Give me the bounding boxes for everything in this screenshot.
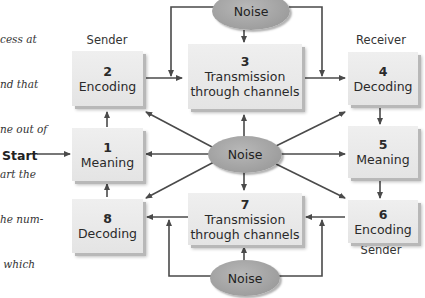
step-box-1-meaning: 1 Meaning (72, 128, 143, 181)
step-number: 4 (348, 64, 418, 79)
step-number: 2 (72, 64, 143, 79)
step-number: 1 (72, 140, 143, 155)
step-number: 3 (188, 54, 302, 69)
role-label-sender-bottom: Sender (341, 243, 421, 257)
step-box-2-encoding: 2 Encoding (72, 51, 143, 106)
step-label: Meaning (348, 152, 418, 167)
step-label: Decoding (72, 226, 143, 241)
step-box-5-meaning: 5 Meaning (348, 126, 418, 178)
role-label-sender-top: Sender (67, 33, 147, 47)
step-box-4-decoding: 4 Decoding (348, 52, 418, 105)
step-number: 7 (188, 197, 302, 212)
step-box-3-transmission: 3 Transmission through channels (188, 44, 302, 109)
noise-ellipse-center: Noise (208, 136, 282, 173)
step-label-line1: Transmission (188, 212, 302, 227)
step-number: 6 (348, 207, 418, 222)
step-label-line1: Transmission (188, 69, 302, 84)
step-box-6-encoding: 6 Encoding (348, 200, 418, 243)
start-label: Start (2, 148, 38, 163)
step-label: Decoding (348, 79, 418, 94)
step-label: Encoding (72, 79, 143, 94)
role-label-receiver-top: Receiver (341, 33, 421, 47)
step-number: 8 (72, 211, 143, 226)
noise-ellipse-bottom: Noise (210, 260, 280, 296)
step-label: Encoding (348, 222, 418, 237)
step-label-line2: through channels (188, 84, 302, 99)
step-label-line2: through channels (188, 227, 302, 242)
step-number: 5 (348, 137, 418, 152)
step-box-8-decoding: 8 Decoding (72, 199, 143, 253)
step-box-7-transmission: 7 Transmission through channels (188, 193, 302, 245)
step-label: Meaning (72, 155, 143, 170)
